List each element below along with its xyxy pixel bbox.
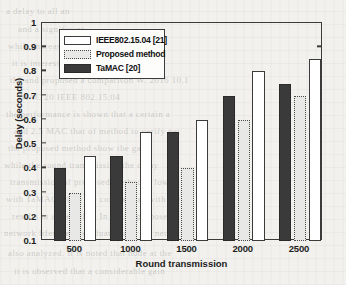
legend-item-ieee: IEEE802.15.04 [21] <box>64 33 160 47</box>
bar-1500-proposed-method <box>181 168 193 241</box>
legend-item-proposed: Proposed method <box>64 47 160 61</box>
bar-2000-tamac-20- <box>223 96 235 241</box>
y-tick-label: 0.2 <box>0 210 41 221</box>
bar-500-tamac-20- <box>54 168 66 241</box>
bar-chart-figure: Delay (seconds) 0.10.20.30.40.50.60.70.8… <box>0 0 346 285</box>
bar-2500-proposed-method <box>294 96 306 241</box>
legend-label-ieee: IEEE802.15.04 [21] <box>96 35 167 45</box>
bar-2500-tamac-20- <box>279 84 291 241</box>
bar-1000-tamac-20- <box>110 156 122 241</box>
bar-1500-ieee802-15-04-21- <box>196 120 208 241</box>
y-tick-label: 0.6 <box>0 113 41 124</box>
legend-swatch-tamac <box>64 64 91 73</box>
y-tick-label: 0.5 <box>0 138 41 149</box>
y-tick-label: 0.4 <box>0 162 41 173</box>
x-tick-label: 500 <box>66 243 81 254</box>
y-tick-label: 0.7 <box>0 89 41 100</box>
y-tick-label: 1 <box>0 17 41 28</box>
y-tick-label: 0.3 <box>0 186 41 197</box>
bar-1500-tamac-20- <box>167 132 179 241</box>
bar-2000-proposed-method <box>238 120 250 241</box>
legend-swatch-ieee <box>64 36 91 45</box>
legend-swatch-proposed <box>64 50 91 59</box>
x-tick-label: 1500 <box>176 243 196 254</box>
bar-500-ieee802-15-04-21- <box>84 156 96 241</box>
x-axis-label: Round transmission <box>41 258 322 269</box>
legend-item-tamac: TaMAC [20] <box>64 61 160 75</box>
bar-1000-ieee802-15-04-21- <box>140 132 152 241</box>
x-tick-label: 2000 <box>233 243 253 254</box>
bar-500-proposed-method <box>69 193 81 241</box>
x-tick-label: 1000 <box>120 243 140 254</box>
bar-2500-ieee802-15-04-21- <box>309 59 321 241</box>
y-tick-label: 0.1 <box>0 235 41 246</box>
bar-1000-proposed-method <box>125 182 137 241</box>
bar-2000-ieee802-15-04-21- <box>252 71 264 241</box>
legend-label-tamac: TaMAC [20] <box>96 63 140 73</box>
x-tick-label: 2500 <box>289 243 309 254</box>
legend-label-proposed: Proposed method <box>96 49 165 59</box>
y-tick-label: 0.9 <box>0 41 41 52</box>
chart-legend: IEEE802.15.04 [21] Proposed method TaMAC… <box>59 29 165 79</box>
y-tick-label: 0.8 <box>0 65 41 76</box>
